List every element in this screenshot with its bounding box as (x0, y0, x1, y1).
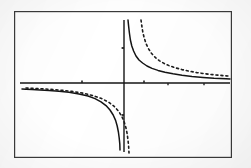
figure-root (0, 0, 251, 168)
hyperbola-plot (14, 11, 232, 158)
plot-border (15, 12, 232, 158)
plot-frame (14, 11, 232, 158)
